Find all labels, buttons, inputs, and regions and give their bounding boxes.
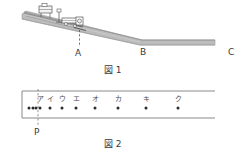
tape-dot-キ (145, 107, 148, 110)
tape-dot-ク (177, 107, 180, 110)
tape-dot-pre-2 (35, 107, 38, 110)
figure-sheet: A B C 図 1 P 図 2 アイウエオカキク (0, 0, 241, 160)
tape-dot-エ (75, 107, 78, 110)
tape-dot-ウ (61, 107, 64, 110)
point-label-b: B (140, 48, 146, 57)
tape-dot-label-キ: キ (143, 96, 150, 103)
tape-dot-pre-1 (32, 107, 35, 110)
tape-dot-series (28, 107, 180, 110)
figure1-group (22, 4, 215, 48)
tape-dot-label-ウ: ウ (59, 96, 66, 103)
tape-dot-label-エ: エ (73, 96, 80, 103)
tape-dot-label-イ: イ (47, 96, 54, 103)
tape-dot-label-ア: ア (37, 96, 44, 103)
tape-dot-label-カ: カ (115, 96, 122, 103)
tape-dot-イ (49, 107, 52, 110)
tape-dot-オ (94, 107, 97, 110)
point-label-a: A (75, 49, 81, 58)
tape-dot-label-ク: ク (175, 96, 182, 103)
tape-dot-pre-0 (28, 107, 31, 110)
tape-dot-label-オ: オ (92, 96, 99, 103)
tape-dot-ア (39, 107, 42, 110)
figure2-caption: 図 2 (104, 140, 122, 149)
figure1-caption: 図 1 (104, 66, 122, 75)
tape-dot-カ (117, 107, 120, 110)
tape-point-label-p: P (34, 128, 39, 137)
point-label-c: C (228, 48, 234, 57)
